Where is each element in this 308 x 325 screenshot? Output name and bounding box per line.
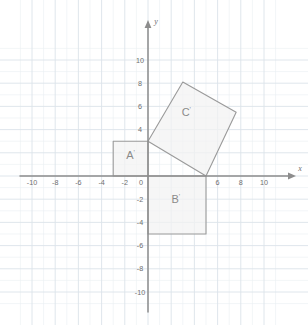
y-tick-label: -6	[137, 241, 143, 250]
x-axis-arrowhead	[288, 173, 296, 180]
shape-label-c-prime: C'	[182, 106, 191, 118]
x-tick-label: 6	[216, 178, 220, 187]
x-axis-name: x	[297, 164, 302, 173]
grid-minor-lines	[0, 0, 308, 325]
x-tick-label: -8	[52, 178, 58, 187]
grid-major-lines	[0, 0, 308, 325]
y-axis-arrowhead	[145, 20, 152, 28]
y-tick-label: -8	[137, 264, 143, 273]
y-tick-label: 8	[138, 79, 142, 88]
x-tick-label: 10	[260, 178, 268, 187]
shape-label-prime-mark: '	[134, 149, 135, 156]
origin-label: 0	[139, 178, 143, 187]
y-tick-label: 10	[136, 56, 144, 65]
y-tick-label: 4	[138, 125, 142, 134]
coordinate-plane-figure: xy -10-8-6-4-206810-10-8-6-4-246810 A'B'…	[0, 0, 308, 325]
x-tick-label: -2	[122, 178, 128, 187]
x-tick-label: -4	[98, 178, 104, 187]
y-tick-label: 6	[138, 102, 142, 111]
shape-c-prime	[148, 82, 236, 176]
x-tick-label: -6	[75, 178, 81, 187]
plot-svg: xy -10-8-6-4-206810-10-8-6-4-246810 A'B'…	[0, 0, 308, 325]
shape-label-prime-mark: '	[179, 193, 180, 200]
shape-b-prime	[148, 176, 206, 234]
x-tick-label: -10	[27, 178, 37, 187]
x-tick-label: 8	[239, 178, 243, 187]
y-tick-label: -10	[135, 288, 145, 297]
shape-label-prime-mark: '	[190, 106, 191, 113]
y-tick-label: -4	[137, 218, 143, 227]
y-tick-label: -2	[137, 195, 143, 204]
y-axis-name: y	[153, 17, 158, 26]
